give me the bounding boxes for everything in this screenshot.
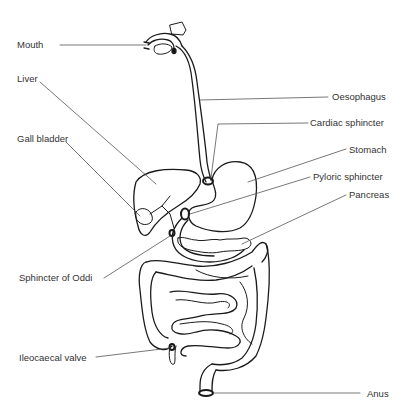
- pancreas: [178, 237, 251, 252]
- transverse-colon: [146, 242, 268, 266]
- leader-oesophagus: [200, 97, 328, 100]
- cardiac-sphincter: [203, 178, 213, 185]
- label-stomach: Stomach: [349, 145, 387, 155]
- label-oesophagus: Oesophagus: [332, 92, 386, 102]
- label-gall-bladder: Gall bladder: [17, 134, 68, 144]
- leader-gall-bladder: [66, 142, 140, 216]
- leader-ileocaecal: [96, 348, 170, 357]
- leader-cardiac: [211, 123, 308, 178]
- leader-pancreas: [242, 195, 346, 244]
- liver: [134, 169, 201, 235]
- gall-bladder: [136, 209, 153, 225]
- label-pyloric-sphincter: Pyloric sphincter: [313, 172, 383, 182]
- sphincter-of-oddi: [170, 230, 175, 236]
- nasal-cavity: [170, 22, 186, 35]
- label-mouth: Mouth: [17, 40, 43, 50]
- ascending-colon: [139, 262, 172, 349]
- rectum: [200, 364, 212, 392]
- descending-colon: [216, 244, 269, 370]
- anus-ring: [199, 390, 213, 396]
- tongue: [154, 44, 172, 54]
- ileocaecal-valve: [170, 344, 175, 350]
- leader-sphincter-oddi: [104, 236, 170, 278]
- label-pancreas: Pancreas: [349, 190, 389, 200]
- label-cardiac-sphincter: Cardiac sphincter: [310, 118, 384, 128]
- label-anus: Anus: [367, 389, 389, 399]
- leader-pyloric: [190, 177, 310, 214]
- label-sphincter-of-oddi: Sphincter of Oddi: [19, 273, 92, 283]
- label-liver: Liver: [17, 74, 38, 84]
- label-ileocaecal-valve: Ileocaecal valve: [19, 353, 87, 363]
